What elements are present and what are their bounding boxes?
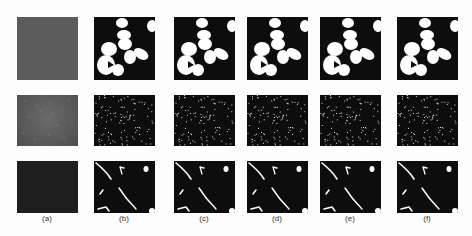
image-b-row3-filaments — [94, 161, 155, 213]
image-c-row3-filaments — [174, 161, 235, 213]
image-e-row1-blobs — [320, 17, 381, 80]
label-e: (e) — [330, 214, 370, 223]
image-a-row2-original — [17, 95, 78, 146]
image-d-row3-filaments — [247, 161, 308, 213]
image-d-row2-speckle — [247, 95, 308, 146]
image-e-row3-filaments — [320, 161, 381, 213]
image-a-row1-original — [17, 17, 78, 80]
image-f-row3-filaments — [397, 161, 458, 213]
image-f-row1-blobs — [397, 17, 458, 80]
label-a: (a) — [27, 214, 67, 223]
image-f-row2-speckle — [397, 95, 458, 146]
label-f: (f) — [407, 214, 447, 223]
image-b-row2-speckle — [94, 95, 155, 146]
label-c: (c) — [184, 214, 224, 223]
image-b-row1-blobs — [94, 17, 155, 80]
image-c-row1-blobs — [174, 17, 235, 80]
label-d: (d) — [257, 214, 297, 223]
label-b: (b) — [104, 214, 144, 223]
image-d-row1-blobs — [247, 17, 308, 80]
image-c-row2-speckle — [174, 95, 235, 146]
image-e-row2-speckle — [320, 95, 381, 146]
image-a-row3-original — [17, 161, 78, 213]
